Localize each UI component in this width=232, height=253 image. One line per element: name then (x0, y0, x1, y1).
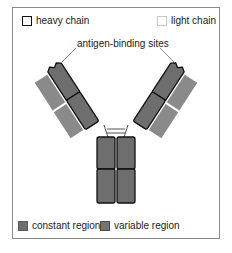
left-arm (32, 61, 99, 139)
legend-variable-region: variable region (100, 220, 180, 231)
legend-variable-region-label: variable region (114, 220, 180, 231)
stem-left-upper (97, 137, 115, 169)
stem-left-lower (97, 169, 115, 203)
hinge (104, 125, 128, 137)
pointer-line-left (62, 48, 76, 62)
legend-constant-region: constant region (18, 220, 100, 231)
right-arm (133, 61, 200, 139)
stem-right-lower (117, 169, 135, 203)
constant-region-swatch-icon (18, 221, 28, 231)
variable-region-swatch-icon (100, 221, 110, 231)
stem (97, 137, 135, 203)
antibody-diagram (0, 0, 232, 253)
legend-constant-region-label: constant region (32, 220, 100, 231)
stem-right-upper (117, 137, 135, 169)
pointer-line-right (160, 48, 174, 62)
